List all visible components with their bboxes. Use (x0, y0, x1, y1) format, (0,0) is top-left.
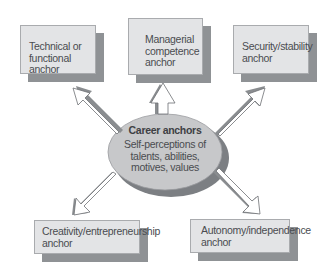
arrow-to-security-icon (215, 86, 265, 136)
anchor-label-line: functional anchor (29, 53, 87, 76)
center-label: Career anchors Self-perceptions of talen… (113, 124, 217, 174)
center-body: Self-perceptions of talents, abilities, … (113, 139, 217, 174)
anchor-box: Managerial competence anchor (128, 18, 203, 75)
anchor-label-line: Creativity/entrepreneurship (42, 226, 131, 238)
arrow-to-autonomy-icon (213, 168, 260, 214)
anchor-label-line: anchor (145, 57, 194, 69)
anchor-label-line: Security/stability (242, 41, 300, 53)
arrow-to-managerial-icon (149, 83, 175, 114)
center-title: Career anchors (113, 124, 217, 136)
anchor-label-line: Autonomy/independence (201, 225, 281, 237)
anchor-label-line: anchor (201, 237, 281, 249)
center-body-line: Self-perceptions of (113, 139, 217, 151)
anchor-label-line: anchor (242, 53, 300, 65)
center-body-line: motives, values (113, 162, 217, 174)
anchor-label-line: Technical or (29, 41, 87, 53)
arrow-to-creativity-icon (72, 172, 116, 215)
anchor-label-line: anchor (42, 238, 131, 250)
anchor-box: Creativity/entrepreneurship anchor (34, 220, 140, 254)
anchor-box: Technical or functional anchor (20, 25, 96, 74)
anchor-box: Autonomy/independence anchor (190, 219, 290, 253)
anchor-box: Security/stability anchor (233, 25, 309, 74)
career-anchors-diagram: Technical or functional anchor Manageria… (0, 0, 332, 275)
anchor-label-line: Managerial (145, 34, 194, 46)
